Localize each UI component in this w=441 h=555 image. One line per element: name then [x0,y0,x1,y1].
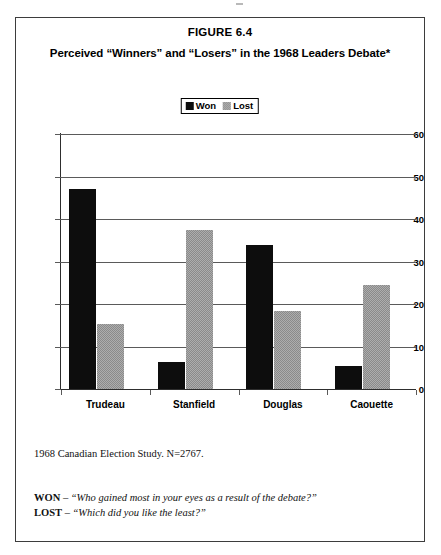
won-dash: – [60,492,71,503]
won-definition-note: WON – “Who gained most in your eyes as a… [34,492,317,503]
gridline [61,134,416,135]
x-axis-label-trudeau: Trudeau [61,399,150,410]
bar-stanfield-lost[interactable] [186,230,213,389]
x-axis-label-stanfield: Stanfield [150,399,239,410]
lost-definition-note: LOST – “Which did you like the least?” [34,507,206,518]
bar-douglas-won[interactable] [246,245,273,390]
gridline [61,219,416,220]
scan-artifact-speck [236,3,243,5]
gridline [61,262,416,263]
lost-dash: – [62,507,73,518]
figure-page: FIGURE 6.4 Perceived “Winners” and “Lose… [0,0,441,555]
x-axis-tick-mark [416,390,417,395]
x-axis-tick-mark [327,390,328,395]
won-question-text: “Who gained most in your eyes as a resul… [71,492,317,503]
bar-douglas-lost[interactable] [274,311,301,389]
x-axis-label-douglas: Douglas [239,399,328,410]
gridline [61,177,416,178]
lost-key-label: LOST [34,507,62,518]
x-axis-label-caouette: Caouette [327,399,416,410]
won-key-label: WON [34,492,60,503]
bar-caouette-won[interactable] [335,366,362,389]
chart-plot-wrapper: 0102030405060 TrudeauStanfieldDouglasCao… [16,18,424,541]
source-note: 1968 Canadian Election Study. N=2767. [34,448,204,459]
figure-border-box: FIGURE 6.4 Perceived “Winners” and “Lose… [15,17,425,542]
x-axis-tick-mark [150,390,151,395]
bar-stanfield-won[interactable] [158,362,185,389]
lost-question-text: “Which did you like the least?” [73,507,206,518]
bar-caouette-lost[interactable] [363,285,390,389]
bar-trudeau-lost[interactable] [97,324,124,389]
chart-plot-area [61,134,416,389]
x-axis-tick-mark [61,390,62,395]
x-axis-tick-mark [239,390,240,395]
bar-trudeau-won[interactable] [69,189,96,389]
